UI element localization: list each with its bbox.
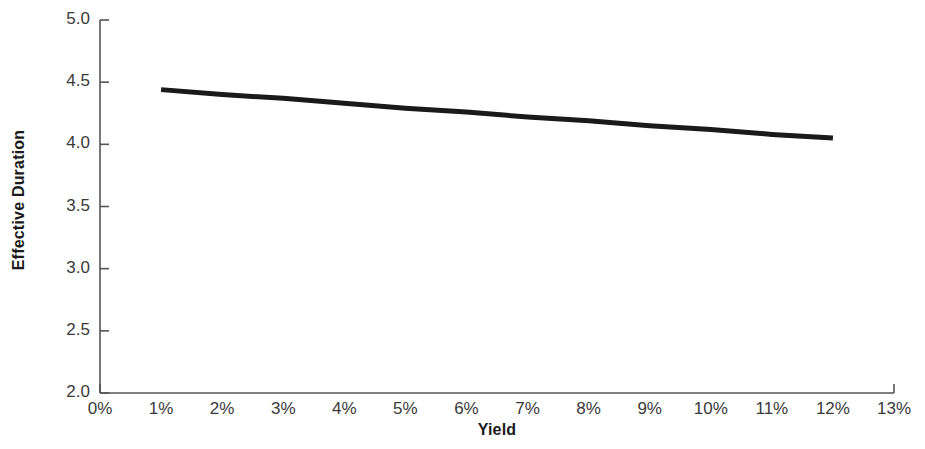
x-tick-label-9: 9% [620,399,680,419]
tick-marks-group [100,20,894,393]
y-tick-label-1: 2.5 [42,320,90,340]
x-tick-label-2: 2% [192,399,252,419]
data-line-0 [161,90,833,138]
y-tick-label-2: 3.0 [42,258,90,278]
x-tick-label-11: 11% [742,399,802,419]
x-tick-label-4: 4% [314,399,374,419]
x-tick-label-1: 1% [131,399,191,419]
y-tick-label-3: 3.5 [42,196,90,216]
x-tick-label-13: 13% [864,399,924,419]
x-tick-label-10: 10% [681,399,741,419]
y-tick-label-5: 4.5 [42,71,90,91]
chart-plot-area [0,0,925,449]
x-tick-label-6: 6% [436,399,496,419]
x-tick-label-7: 7% [498,399,558,419]
x-tick-label-12: 12% [803,399,863,419]
y-tick-label-4: 4.0 [42,133,90,153]
x-tick-label-3: 3% [253,399,313,419]
x-tick-label-5: 5% [375,399,435,419]
data-series-group [161,90,833,138]
x-tick-label-0: 0% [70,399,130,419]
x-tick-label-8: 8% [559,399,619,419]
chart-container: Effective Duration Yield 2.02.53.03.54.0… [0,0,925,449]
axes-group [100,20,894,393]
y-tick-label-6: 5.0 [42,9,90,29]
